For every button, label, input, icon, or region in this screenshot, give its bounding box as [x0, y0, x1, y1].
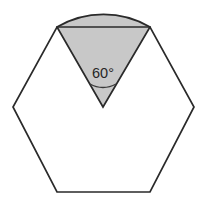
angle-label: 60°: [92, 65, 114, 81]
figure-canvas: 60°: [0, 0, 207, 206]
hexagon-sector-diagram: 60°: [0, 0, 207, 206]
